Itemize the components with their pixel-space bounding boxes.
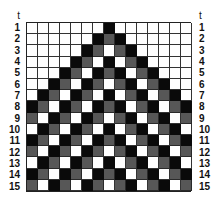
grid-cell: [126, 34, 137, 45]
grid-cell: [93, 57, 104, 68]
grid-cell: [60, 146, 71, 157]
grid-cell: [82, 68, 93, 79]
grid-cell: [27, 79, 38, 90]
grid-cell: [137, 169, 148, 180]
grid-cell: [181, 68, 192, 79]
grid-cell: [27, 146, 38, 157]
row-label: 6: [199, 79, 213, 90]
grid-cell: [104, 90, 115, 101]
grid-cell: [93, 135, 104, 146]
row-label: 12: [199, 147, 213, 158]
grid-cell: [159, 101, 170, 112]
grid-cell: [60, 90, 71, 101]
grid-cell: [170, 180, 181, 191]
grid-cell: [115, 124, 126, 135]
grid-cell: [159, 135, 170, 146]
grid-cell: [181, 135, 192, 146]
grid-cell: [60, 68, 71, 79]
grid-cell: [27, 135, 38, 146]
grid-cell: [60, 135, 71, 146]
grid-cell: [170, 79, 181, 90]
grid-cell: [60, 57, 71, 68]
grid-cell: [82, 180, 93, 191]
grid-cell: [137, 79, 148, 90]
grid-cell: [82, 79, 93, 90]
grid-cell: [49, 180, 60, 191]
row-label: 13: [199, 158, 213, 169]
grid-cell: [104, 124, 115, 135]
grid-cell: [159, 124, 170, 135]
grid-cell: [148, 90, 159, 101]
grid-cell: [60, 34, 71, 45]
grid-cell: [170, 113, 181, 124]
grid-cell: [137, 146, 148, 157]
row-label: 7: [199, 90, 213, 101]
grid-cell: [159, 79, 170, 90]
grid-cell: [60, 113, 71, 124]
grid-cell: [126, 169, 137, 180]
grid-cell: [115, 180, 126, 191]
row-label: 2: [199, 33, 213, 44]
row-label: 3: [199, 45, 213, 56]
grid-cell: [126, 68, 137, 79]
row-label: 15: [6, 181, 20, 192]
grid-cell: [38, 45, 49, 56]
grid-cell: [170, 157, 181, 168]
grid-cell: [93, 68, 104, 79]
grid-cell: [148, 68, 159, 79]
grid-cell: [170, 57, 181, 68]
grid-cell: [159, 23, 170, 34]
grid-cell: [93, 169, 104, 180]
grid-cell: [71, 180, 82, 191]
grid-cell: [27, 45, 38, 56]
grid-cell: [38, 57, 49, 68]
grid-cell: [82, 169, 93, 180]
time-axis-label: t: [6, 9, 20, 22]
grid-cell: [71, 23, 82, 34]
grid-cell: [181, 90, 192, 101]
grid-cell: [115, 90, 126, 101]
row-label: 6: [6, 79, 20, 90]
grid-cell: [115, 23, 126, 34]
grid-cell: [71, 79, 82, 90]
grid-cell: [71, 157, 82, 168]
grid-cell: [115, 157, 126, 168]
grid-cell: [115, 68, 126, 79]
grid-cell: [104, 157, 115, 168]
grid-cell: [148, 57, 159, 68]
grid-cell: [115, 113, 126, 124]
grid-cell: [148, 45, 159, 56]
grid-cell: [126, 101, 137, 112]
grid-cell: [38, 101, 49, 112]
row-label: 10: [199, 124, 213, 135]
grid-cell: [181, 34, 192, 45]
grid-cell: [170, 101, 181, 112]
grid-cell: [38, 23, 49, 34]
grid-cell: [38, 79, 49, 90]
grid-cell: [60, 157, 71, 168]
grid-cell: [137, 90, 148, 101]
grid-cell: [82, 34, 93, 45]
grid-cell: [181, 180, 192, 191]
grid-cell: [93, 90, 104, 101]
grid-cell: [49, 157, 60, 168]
grid-cell: [38, 68, 49, 79]
grid-cell: [126, 23, 137, 34]
grid-cell: [159, 146, 170, 157]
grid-cell: [49, 68, 60, 79]
grid-cell: [170, 90, 181, 101]
grid-cell: [38, 135, 49, 146]
grid-cell: [170, 34, 181, 45]
grid-cell: [27, 23, 38, 34]
grid-cell: [71, 113, 82, 124]
grid-cell: [126, 180, 137, 191]
grid-cell: [49, 23, 60, 34]
grid-cell: [71, 34, 82, 45]
row-label: 9: [6, 113, 20, 124]
grid-cell: [104, 68, 115, 79]
grid-cell: [148, 135, 159, 146]
grid-cell: [27, 124, 38, 135]
grid-cell: [181, 101, 192, 112]
grid-cell: [115, 135, 126, 146]
grid-cell: [137, 135, 148, 146]
